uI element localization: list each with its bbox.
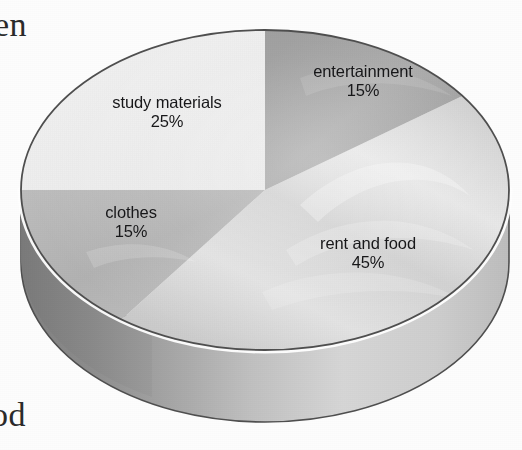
slice-label-study-materials-name: study materials — [74, 93, 260, 112]
slice-label-entertainment-value: 15% — [273, 81, 453, 100]
slice-label-entertainment: entertainment 15% — [273, 62, 453, 101]
slice-label-clothes: clothes 15% — [66, 203, 196, 242]
pie-chart-figure: en od — [0, 0, 522, 450]
slice-label-study-materials: study materials 25% — [74, 93, 260, 132]
slice-label-rent-and-food-value: 45% — [288, 253, 448, 272]
slice-label-clothes-value: 15% — [66, 222, 196, 241]
slice-label-clothes-name: clothes — [66, 203, 196, 222]
slice-label-rent-and-food-name: rent and food — [288, 234, 448, 253]
slice-label-entertainment-name: entertainment — [273, 62, 453, 81]
slice-label-rent-and-food: rent and food 45% — [288, 234, 448, 273]
slice-label-study-materials-value: 25% — [74, 112, 260, 131]
